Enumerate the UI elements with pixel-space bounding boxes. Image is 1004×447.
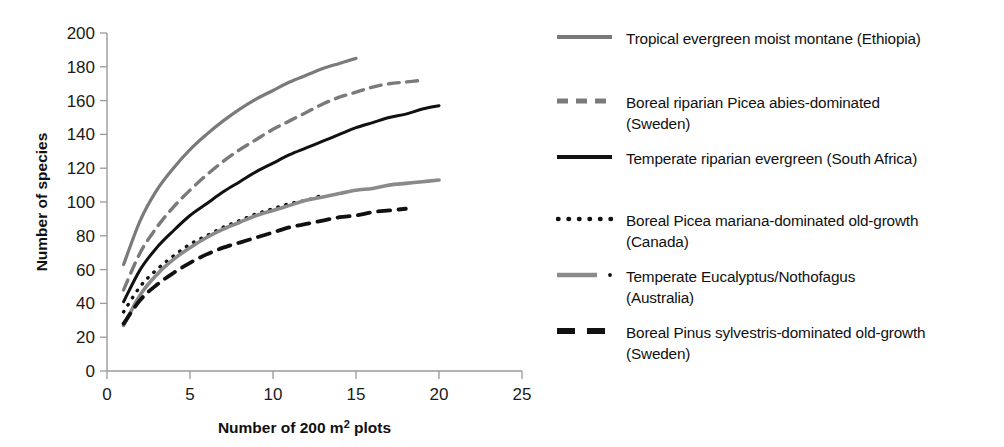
x-axis-title: Number of 200 m2 plots [218, 418, 391, 436]
legend-item[interactable]: Boreal riparian Picea abies-dominated (S… [556, 92, 1004, 134]
y-axis-title: Number of species [33, 133, 50, 272]
species-accumulation-figure: 0204060801001201401601802000510152025 Nu… [0, 0, 1004, 447]
plot-panel: 0204060801001201401601802000510152025 Nu… [0, 0, 550, 447]
thick-dashed-black-line-icon [556, 326, 618, 344]
svg-text:120: 120 [67, 159, 95, 178]
axes-group: 0204060801001201401601802000510152025 [67, 24, 532, 404]
gray-line-dot-icon [556, 270, 618, 288]
svg-text:40: 40 [76, 294, 95, 313]
legend-item-label: Boreal riparian Picea abies-dominated (S… [626, 92, 880, 134]
legend-item-label: Temperate riparian evergreen (South Afri… [626, 148, 917, 169]
svg-text:140: 140 [67, 125, 95, 144]
svg-text:160: 160 [67, 92, 95, 111]
legend-item[interactable]: Temperate riparian evergreen (South Afri… [556, 148, 1004, 170]
chart-svg: 0204060801001201401601802000510152025 Nu… [0, 0, 550, 447]
series-line [124, 58, 356, 264]
svg-text:0: 0 [86, 362, 95, 381]
svg-text:0: 0 [102, 385, 111, 404]
legend-item-label: Tropical evergreen moist montane (Ethiop… [626, 28, 921, 49]
svg-text:15: 15 [347, 385, 366, 404]
dotted-black-line-icon [556, 214, 618, 232]
svg-text:80: 80 [76, 227, 95, 246]
legend-item[interactable]: Boreal Pinus sylvestris-dominated old-gr… [556, 322, 1004, 364]
svg-text:25: 25 [513, 385, 532, 404]
svg-text:60: 60 [76, 261, 95, 280]
svg-text:20: 20 [430, 385, 449, 404]
legend-item[interactable]: Temperate Eucalyptus/Nothofagus (Austral… [556, 266, 1004, 308]
legend-item[interactable]: Boreal Picea mariana-dominated old-growt… [556, 210, 1004, 252]
svg-text:180: 180 [67, 58, 95, 77]
legend-item-label: Boreal Picea mariana-dominated old-growt… [626, 210, 918, 252]
solid-black-line-icon [556, 152, 618, 170]
svg-text:5: 5 [185, 385, 194, 404]
legend-item-label: Boreal Pinus sylvestris-dominated old-gr… [626, 322, 925, 364]
series-line [124, 106, 439, 302]
series-line [124, 180, 439, 325]
chart-legend: Tropical evergreen moist montane (Ethiop… [556, 26, 1004, 426]
svg-text:200: 200 [67, 24, 95, 43]
svg-text:10: 10 [264, 385, 283, 404]
solid-gray-line-icon [556, 32, 618, 50]
series-group [124, 58, 439, 325]
dashed-gray-line-icon [556, 96, 618, 114]
svg-text:20: 20 [76, 328, 95, 347]
series-line [124, 80, 423, 290]
legend-item[interactable]: Tropical evergreen moist montane (Ethiop… [556, 28, 1004, 50]
svg-text:100: 100 [67, 193, 95, 212]
legend-item-label: Temperate Eucalyptus/Nothofagus (Austral… [626, 266, 855, 308]
